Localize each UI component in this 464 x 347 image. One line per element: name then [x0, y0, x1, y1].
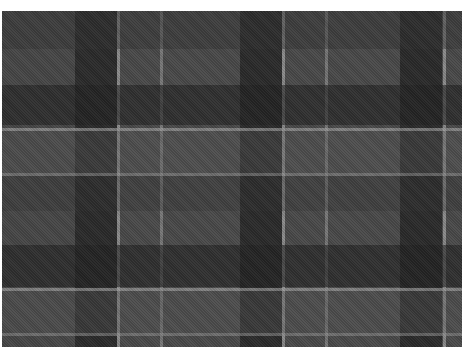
horizontal-stripe [2, 176, 462, 211]
horizontal-stripe [2, 85, 462, 125]
caption-strip [0, 0, 464, 11]
horizontal-stripe [2, 291, 462, 333]
horizontal-stripe [2, 333, 462, 336]
horizontal-stripe [2, 245, 462, 287]
horizontal-stripe [2, 11, 462, 49]
plaid-texture [2, 11, 462, 347]
horizontal-stripe [2, 131, 462, 173]
